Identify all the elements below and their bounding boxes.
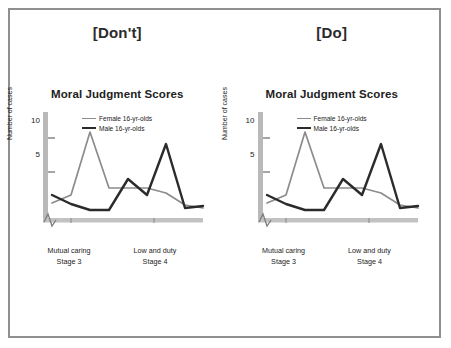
y-axis-label: Number of cases (6, 87, 13, 140)
series-female-line (267, 132, 418, 208)
legend-line-icon-male (297, 127, 311, 129)
chart-legend: Female 16-yr-olds Male 16-yr-olds (297, 114, 367, 133)
x-group-stage4-line2: Stage 4 (331, 257, 409, 268)
y-axis-bar (43, 112, 48, 220)
x-group-stage3: Mutual caring Stage 3 (30, 246, 108, 268)
legend-line-icon-female (297, 118, 311, 119)
x-group-stage3: Mutual caring Stage 3 (245, 246, 323, 268)
series-male-line (267, 144, 418, 210)
legend-line-icon-female (82, 118, 96, 119)
legend-label-male: Male 16-yr-olds (314, 124, 359, 134)
y-axis-bar (258, 112, 263, 220)
x-group-stage3-line2: Stage 3 (245, 257, 323, 268)
x-group-stage3-line1: Mutual caring (245, 246, 323, 257)
figure-frame: [Don't] Moral Judgment Scores Number of … (8, 8, 441, 338)
chart-title: Moral Judgment Scores (10, 88, 225, 100)
panel-tag-do: [Do] (225, 24, 440, 41)
dont-panel: [Don't] Moral Judgment Scores Number of … (10, 10, 225, 336)
chart-do: Moral Judgment Scores Number of cases 10… (225, 88, 440, 288)
x-group-stage4-line1: Low and duty (116, 246, 194, 257)
x-group-stage4: Low and duty Stage 4 (331, 246, 409, 268)
legend-item-male: Male 16-yr-olds (82, 124, 152, 134)
x-group-stage3-line2: Stage 3 (30, 257, 108, 268)
x-group-stage4: Low and duty Stage 4 (116, 246, 194, 268)
x-axis-bar (258, 218, 418, 223)
series-male-line (52, 144, 203, 210)
y-axis-label: Number of cases (221, 87, 228, 140)
legend-label-male: Male 16-yr-olds (99, 124, 144, 134)
legend-label-female: Female 16-yr-olds (99, 114, 152, 124)
panel-tag-dont: [Don't] (10, 24, 225, 41)
x-axis-labels: Mutual caring Stage 3 Low and duty Stage… (26, 246, 208, 282)
chart-legend: Female 16-yr-olds Male 16-yr-olds (82, 114, 152, 133)
x-axis-labels: Mutual caring Stage 3 Low and duty Stage… (241, 246, 423, 282)
chart-dont: Moral Judgment Scores Number of cases 10… (10, 88, 225, 288)
legend-line-icon-male (82, 127, 96, 129)
x-group-stage4-line1: Low and duty (331, 246, 409, 257)
x-group-stage4-line2: Stage 4 (116, 257, 194, 268)
legend-item-female: Female 16-yr-olds (297, 114, 367, 124)
series-female-line (52, 132, 203, 208)
legend-item-male: Male 16-yr-olds (297, 124, 367, 134)
legend-label-female: Female 16-yr-olds (314, 114, 367, 124)
legend-item-female: Female 16-yr-olds (82, 114, 152, 124)
x-axis-bar (43, 218, 203, 223)
do-panel: [Do] Moral Judgment Scores Number of cas… (225, 10, 440, 336)
x-group-stage3-line1: Mutual caring (30, 246, 108, 257)
chart-title: Moral Judgment Scores (225, 88, 440, 100)
